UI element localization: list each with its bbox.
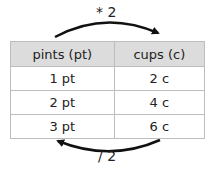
cell-cups: 6 c <box>114 115 204 139</box>
table-row: 1 pt 2 c <box>11 67 205 91</box>
cell-cups: 2 c <box>114 67 204 91</box>
cell-pints: 2 pt <box>11 91 115 115</box>
table-row: 2 pt 4 c <box>11 91 205 115</box>
conversion-table: pints (pt) cups (c) 1 pt 2 c 2 pt 4 c 3 … <box>10 41 205 139</box>
header-pints: pints (pt) <box>11 42 115 67</box>
multiply-label: * 2 <box>96 4 116 20</box>
cell-pints: 3 pt <box>11 115 115 139</box>
divide-label: / 2 <box>98 148 116 164</box>
multiply-arrow-icon <box>55 22 158 37</box>
cell-pints: 1 pt <box>11 67 115 91</box>
header-cups: cups (c) <box>114 42 204 67</box>
table-row: 3 pt 6 c <box>11 115 205 139</box>
cell-cups: 4 c <box>114 91 204 115</box>
